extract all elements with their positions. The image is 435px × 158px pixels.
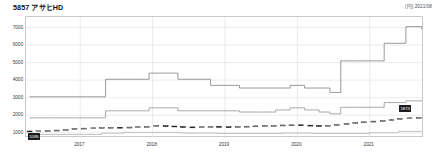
x-axis-tick-label: 2021 <box>364 142 374 147</box>
candle-body-up <box>127 127 132 128</box>
candle-body-up <box>389 120 394 121</box>
candle-body-up <box>289 125 294 126</box>
candle-body-up <box>208 126 213 127</box>
step-line-path <box>30 27 422 97</box>
candle-body-up <box>236 127 241 128</box>
candle-body-down <box>226 127 231 128</box>
candle-body-up <box>262 126 267 127</box>
candle-body-up <box>36 131 41 132</box>
x-axis-tick-label: 2017 <box>74 142 84 147</box>
candle-body-up <box>253 126 258 127</box>
candle-body-down <box>317 126 322 127</box>
candle-body-up <box>380 120 385 121</box>
candle-body-up <box>344 124 349 125</box>
candle-body-down <box>217 126 222 127</box>
candle-body-up <box>136 127 141 128</box>
chart-unit-date-note: (円) 2021/08 <box>405 3 432 9</box>
candle-body-down <box>163 126 168 127</box>
candle-body-up <box>244 126 249 127</box>
candle-body-up <box>81 128 86 129</box>
upper-band-step-line <box>30 27 422 97</box>
candle-body-down <box>308 125 313 126</box>
y-axis-tick-label: 7000 <box>13 24 23 29</box>
y-axis-tick-label: 6000 <box>13 42 23 47</box>
candle-body-down <box>118 127 123 128</box>
x-axis-tick-label: 2019 <box>219 142 229 147</box>
candle-body-up <box>91 128 96 129</box>
candle-body-down <box>172 126 177 127</box>
y-axis-tick-label: 3000 <box>13 94 23 99</box>
x-axis-tick-label: 2020 <box>291 142 301 147</box>
candle-body-up <box>63 130 68 131</box>
candle-body-up <box>108 127 113 128</box>
candle-body-up <box>371 121 376 122</box>
candle-body-up <box>353 123 358 124</box>
candle-body-down <box>27 131 32 132</box>
candle-body-up <box>144 126 149 127</box>
candle-body-up <box>154 126 159 127</box>
candlestick-series <box>27 117 421 132</box>
vertical-gridlines <box>80 17 369 138</box>
candle-body-up <box>407 118 412 119</box>
stock-chart-panel: 5857 アサヒHD (円) 2021/08 70006000500040003… <box>0 0 435 158</box>
candle-body-up <box>398 119 403 120</box>
y-axis-tick-label: 1000 <box>13 129 23 134</box>
candle-body-up <box>416 117 421 118</box>
y-axis-tick-label: 2000 <box>13 112 23 117</box>
candle-body-up <box>280 125 285 126</box>
candle-body-up <box>45 130 50 131</box>
candle-body-up <box>99 127 104 128</box>
candle-body-up <box>335 125 340 126</box>
x-axis-tick-label: 2018 <box>146 142 156 147</box>
candle-body-down <box>181 127 186 128</box>
candle-body-up <box>72 129 77 130</box>
candle-body-up <box>272 125 277 126</box>
candle-body-up <box>55 130 60 131</box>
x-axis-labels: 20172018201920202021 <box>25 139 423 153</box>
chart-canvas <box>26 17 424 138</box>
price-annotation-tag: 1873 <box>399 105 412 112</box>
candle-body-up <box>361 122 366 123</box>
candle-body-down <box>190 127 195 128</box>
candle-body-up <box>199 127 204 128</box>
y-axis-tick-label: 4000 <box>13 77 23 82</box>
plot-area: 10951873 <box>25 16 423 137</box>
candle-body-down <box>298 125 303 126</box>
page-title: 5857 アサヒHD <box>13 2 63 12</box>
candle-body-up <box>325 125 330 126</box>
y-axis-tick-label: 5000 <box>13 59 23 64</box>
y-axis-labels: 7000600050004000300020001000 <box>0 16 23 137</box>
